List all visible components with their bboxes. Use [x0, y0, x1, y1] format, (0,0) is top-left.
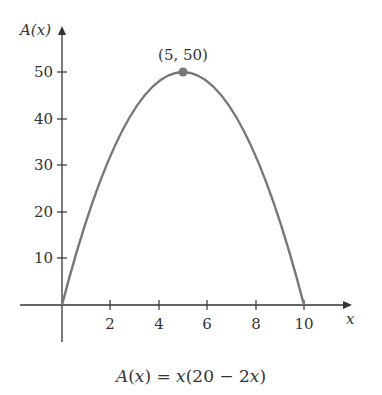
chart: 2 4 6 8 10 x 10 20 30 40 50 A(x) (5, 50)	[0, 0, 382, 395]
y-tick-label: 10	[34, 249, 53, 267]
x-tick-label: 10	[294, 315, 313, 333]
function-caption: A(x) = x(20 − 2x)	[0, 366, 382, 386]
x-axis-arrow-icon	[343, 301, 352, 309]
y-tick-label: 20	[34, 203, 53, 221]
y-tick-label: 30	[34, 156, 53, 174]
y-tick-label: 50	[34, 63, 53, 81]
curve-a-of-x	[62, 72, 304, 305]
peak-label: (5, 50)	[158, 46, 208, 64]
y-axis-label: A(x)	[18, 21, 51, 39]
x-tick-label: 8	[251, 315, 261, 333]
x-tick-label: 6	[202, 315, 212, 333]
y-tick-label: 40	[34, 110, 53, 128]
x-tick-label: 2	[105, 315, 115, 333]
x-tick-label: 4	[154, 315, 164, 333]
y-axis-arrow-icon	[58, 26, 66, 35]
x-axis-label: x	[346, 310, 355, 328]
peak-point	[179, 68, 188, 77]
